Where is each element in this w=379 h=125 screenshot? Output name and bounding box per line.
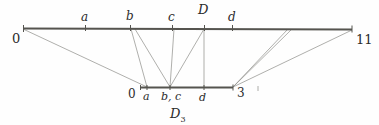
figure-diagram: 0 a b c D d 11 0 a b, c d 3 D3 [0, 0, 379, 125]
top-tick-label-c: c [168, 11, 175, 23]
top-tick-label-b: b [126, 10, 134, 22]
top-axis-left-endpoint-label: 0 [12, 32, 20, 45]
ray-right2-to-3 [233, 29, 292, 87]
ray-11-to-3 [233, 30, 352, 87]
top-point-label-D: D [198, 3, 208, 16]
projection-rays [23, 29, 352, 87]
bottom-axis-right-endpoint-label: 3 [237, 87, 245, 99]
ray-c-to-bc [170, 29, 174, 87]
figure-caption-subscript: 3 [180, 115, 185, 124]
figure-caption-letter: D [170, 106, 180, 121]
ray-0-to-a [23, 29, 147, 87]
ray-right1-to-3 [233, 29, 288, 87]
ray-D-to-bc [170, 29, 204, 87]
top-axis-right-endpoint-label: 11 [356, 33, 373, 46]
bottom-axis-left-endpoint-label: 0 [128, 88, 136, 100]
top-axis-line [23, 29, 352, 30]
ray-b-to-a [131, 29, 147, 87]
ray-b2-to-bc [135, 29, 170, 87]
bottom-tick-label-bc: b, c [161, 91, 181, 102]
top-tick-label-d: d [228, 11, 236, 23]
top-axis-group [23, 25, 352, 33]
diagram-canvas [0, 0, 379, 125]
bottom-tick-label-d: d [199, 92, 206, 103]
top-tick-label-a: a [81, 11, 88, 23]
bottom-axis-group [140, 85, 233, 91]
figure-caption: D3 [170, 107, 186, 124]
bottom-tick-label-a: a [143, 91, 150, 102]
